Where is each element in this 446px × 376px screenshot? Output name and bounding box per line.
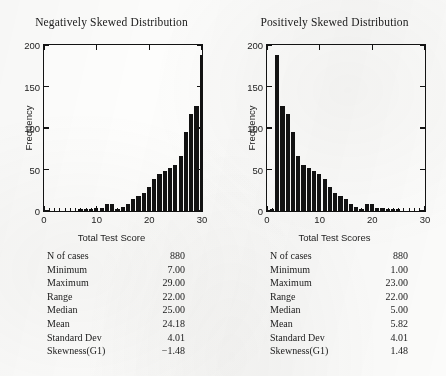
histogram-bar [312, 171, 316, 211]
y-axis-tick-label: 150 [24, 81, 40, 92]
stats-value: −1.48 [141, 345, 197, 359]
x-axis-minor-tick [388, 208, 389, 211]
stats-value: 22.00 [364, 291, 420, 305]
y-axis-tick [44, 127, 49, 128]
stats-value: 7.00 [141, 264, 197, 278]
histogram-bar [157, 174, 161, 211]
stats-label: Maximum [270, 277, 364, 291]
x-axis-minor-tick [101, 208, 102, 211]
stats-label: Median [47, 304, 141, 318]
stats-label: Skewness(G1) [47, 345, 141, 359]
x-axis-minor-tick [59, 208, 60, 211]
x-axis-minor-tick [123, 208, 124, 211]
stats-row: Minimum7.00 [47, 264, 197, 278]
histogram-bar [173, 165, 177, 211]
x-axis-tick [96, 45, 97, 50]
stats-label: Standard Dev [270, 332, 364, 346]
histogram-bar [275, 55, 279, 211]
x-axis-minor-tick [340, 208, 341, 211]
histogram-bar [280, 106, 284, 211]
x-axis-minor-tick [335, 208, 336, 211]
x-axis-minor-tick [175, 208, 176, 211]
x-axis-minor-tick [86, 208, 87, 211]
stats-label: Skewness(G1) [270, 345, 364, 359]
stats-label: Mean [47, 318, 141, 332]
stats-row: Mean24.18 [47, 318, 197, 332]
x-axis-minor-tick [419, 208, 420, 211]
y-axis-tick [44, 44, 49, 45]
stats-value: 1.00 [364, 264, 420, 278]
stats-value: 5.82 [364, 318, 420, 332]
histogram-bar [286, 114, 290, 211]
x-axis-minor-tick [367, 208, 368, 211]
x-axis-tick-label: 10 [91, 214, 102, 225]
stats-label: Minimum [47, 264, 141, 278]
figure-container: Negatively Skewed Distribution Frequency… [0, 0, 446, 376]
stats-label: Minimum [270, 264, 364, 278]
y-axis-tick-label: 100 [247, 123, 263, 134]
x-axis-tick [424, 45, 425, 50]
stats-row: Skewness(G1)1.48 [270, 345, 420, 359]
histogram-bar [323, 179, 327, 211]
x-axis-minor-tick [65, 208, 66, 211]
x-axis-minor-tick [117, 208, 118, 211]
stats-row: N of cases880 [47, 250, 197, 264]
panel-negative-skew: Negatively Skewed Distribution Frequency… [0, 0, 223, 376]
x-axis-tick [43, 206, 44, 211]
x-axis-minor-tick [346, 208, 347, 211]
x-axis-minor-tick [133, 208, 134, 211]
stats-value: 5.00 [364, 304, 420, 318]
x-axis-tick [96, 206, 97, 211]
x-axis-tick [201, 45, 202, 50]
histogram-bar [184, 132, 188, 211]
stats-row: Standard Dev4.01 [270, 332, 420, 346]
x-axis-minor-tick [128, 208, 129, 211]
x-axis-minor-tick [154, 208, 155, 211]
stats-value: 880 [141, 250, 197, 264]
histogram-bar [291, 132, 295, 211]
stats-row: Skewness(G1)−1.48 [47, 345, 197, 359]
y-axis-tick [267, 44, 272, 45]
stats-label: Mean [270, 318, 364, 332]
x-axis-minor-tick [314, 208, 315, 211]
stats-value: 1.48 [364, 345, 420, 359]
stats-row: Maximum23.00 [270, 277, 420, 291]
x-axis-minor-tick [356, 208, 357, 211]
x-axis-tick [201, 206, 202, 211]
stats-label: N of cases [47, 250, 141, 264]
y-axis-tick-label: 0 [258, 206, 263, 217]
x-axis-minor-tick [144, 208, 145, 211]
stats-label: Range [47, 291, 141, 305]
x-axis-tick [319, 45, 320, 50]
y-axis-tick [267, 127, 272, 128]
y-axis-tick-label: 50 [252, 164, 263, 175]
histogram-bar [296, 156, 300, 211]
histogram-bar [168, 168, 172, 211]
x-axis-tick [372, 45, 373, 50]
x-axis-tick [372, 206, 373, 211]
x-axis-minor-tick [138, 208, 139, 211]
y-axis-tick [420, 86, 425, 87]
panel-positive-skew: Positively Skewed Distribution Frequency… [223, 0, 446, 376]
x-axis-minor-tick [282, 208, 283, 211]
stats-value: 25.00 [141, 304, 197, 318]
plot-area-left: 0501001502000102030 [43, 44, 203, 212]
x-axis-tick [319, 206, 320, 211]
x-axis-tick-label: 0 [264, 214, 269, 225]
x-axis-minor-tick [159, 208, 160, 211]
x-axis-minor-tick [191, 208, 192, 211]
y-axis-tick-label: 50 [29, 164, 40, 175]
x-axis-tick-label: 0 [41, 214, 46, 225]
stats-label: Maximum [47, 277, 141, 291]
plot-area-right: 0501001502000102030 [266, 44, 426, 212]
x-axis-minor-tick [351, 208, 352, 211]
stats-value: 4.01 [364, 332, 420, 346]
x-axis-minor-tick [91, 208, 92, 211]
y-axis-tick [197, 127, 202, 128]
histogram-bar [152, 179, 156, 211]
y-axis-tick [197, 86, 202, 87]
x-axis-minor-tick [80, 208, 81, 211]
stats-row: N of cases880 [270, 250, 420, 264]
y-axis-tick [267, 86, 272, 87]
stats-table-right: N of cases880Minimum1.00Maximum23.00Rang… [270, 250, 420, 359]
